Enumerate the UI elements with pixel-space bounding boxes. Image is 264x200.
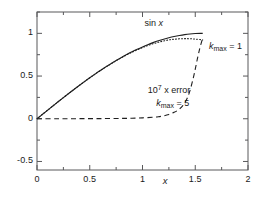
annotation-sin-label: sin x xyxy=(145,18,164,28)
x-tick-label: 0.5 xyxy=(75,174,105,184)
plot-frame xyxy=(37,12,248,170)
plot-canvas xyxy=(0,0,264,200)
x-tick-label: 1 xyxy=(128,174,158,184)
figure-container: 10.50-0.5 00.511.52 x sin xkmax = 1107 x… xyxy=(0,0,264,200)
x-tick-label: 1.5 xyxy=(180,174,210,184)
y-tick-label: -0.5 xyxy=(17,155,33,165)
y-tick-label: 0.5 xyxy=(20,70,33,80)
x-tick-label: 0 xyxy=(22,174,52,184)
y-tick-label: 1 xyxy=(28,27,33,37)
axis-ticks xyxy=(37,12,248,170)
annotation-kmax1-label: kmax = 1 xyxy=(209,41,242,52)
annotation-error-label: 107 x error xyxy=(148,84,190,95)
annotation-kmax5-label: kmax = 5 xyxy=(156,98,189,109)
x-tick-label: 2 xyxy=(233,174,263,184)
y-tick-label: 0 xyxy=(28,113,33,123)
x-axis-title: x xyxy=(163,175,168,186)
